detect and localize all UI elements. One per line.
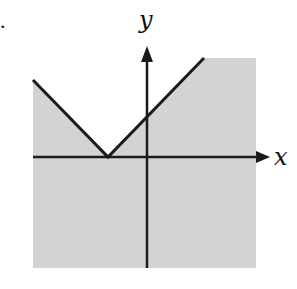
y-axis-arrow-icon [141, 46, 153, 62]
shaded-region [33, 58, 256, 268]
x-axis-label: x [274, 143, 288, 171]
y-axis-label: y [138, 6, 153, 34]
x-axis-arrow-icon [256, 151, 270, 163]
graph-svg: x y [0, 0, 297, 289]
